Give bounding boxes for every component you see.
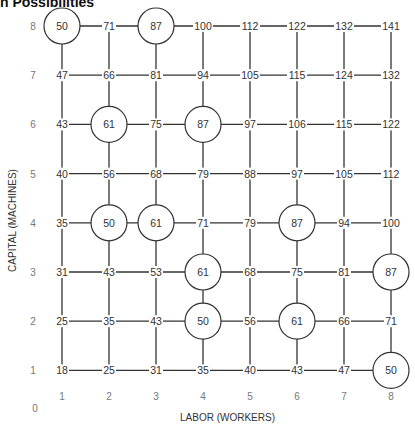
node-value: 106: [288, 118, 306, 130]
node-value: 97: [291, 168, 303, 180]
node-value: 132: [335, 20, 353, 32]
node-value: 105: [335, 168, 353, 180]
x-tick-label: 6: [294, 391, 300, 402]
node-value: 47: [56, 69, 68, 81]
node-value: 94: [197, 69, 209, 81]
y-tick-label: 3: [30, 267, 36, 278]
node-value: 75: [291, 266, 303, 278]
node-value: 66: [103, 69, 115, 81]
circled-node-value: 87: [197, 118, 209, 130]
x-axis-label: LABOR (WORKERS): [180, 412, 275, 423]
node-value: 68: [244, 266, 256, 278]
circled-node-value: 87: [291, 217, 303, 229]
node-value: 112: [383, 168, 400, 180]
node-value: 100: [382, 217, 400, 229]
node-value: 100: [194, 20, 212, 32]
circled-node-value: 50: [197, 315, 209, 327]
circled-node-value: 61: [197, 266, 209, 278]
node-value: 31: [56, 266, 68, 278]
node-value: 71: [103, 20, 115, 32]
node-value: 66: [338, 315, 350, 327]
node-value: 71: [385, 315, 397, 327]
y-tick-label: 8: [30, 21, 36, 32]
node-value: 43: [291, 364, 303, 376]
x-tick-label: 2: [106, 391, 112, 402]
circled-node-value: 61: [291, 315, 303, 327]
node-value: 71: [197, 217, 209, 229]
y-tick-label: 6: [30, 119, 36, 130]
node-value: 43: [150, 315, 162, 327]
x-tick-label: 1: [59, 391, 65, 402]
node-value: 31: [150, 364, 162, 376]
x-tick-label: 8: [388, 391, 394, 402]
node-value: 94: [338, 217, 350, 229]
node-value: 35: [197, 364, 209, 376]
origin-label: 0: [32, 403, 38, 414]
node-value: 81: [338, 266, 350, 278]
circled-node-value: 50: [56, 20, 68, 32]
node-value: 43: [56, 118, 68, 130]
y-axis-label: CAPITAL (MACHINES): [7, 161, 18, 281]
node-value: 56: [103, 168, 115, 180]
node-value: 88: [244, 168, 256, 180]
node-value: 40: [244, 364, 256, 376]
node-value: 141: [382, 20, 400, 32]
y-tick-label: 5: [30, 169, 36, 180]
node-value: 47: [338, 364, 350, 376]
node-value: 132: [382, 69, 400, 81]
x-tick-label: 3: [153, 391, 159, 402]
node-value: 25: [103, 364, 115, 376]
circled-node-value: 87: [385, 266, 397, 278]
y-tick-label: 1: [30, 365, 36, 376]
circled-node-value: 61: [150, 217, 162, 229]
node-value: 105: [241, 69, 259, 81]
node-value: 18: [56, 364, 68, 376]
x-tick-label: 5: [247, 391, 253, 402]
node-value: 122: [382, 118, 400, 130]
node-value: 122: [288, 20, 306, 32]
node-value: 35: [56, 217, 68, 229]
x-tick-label: 4: [200, 391, 206, 402]
node-value: 68: [150, 168, 162, 180]
x-tick-label: 7: [341, 391, 347, 402]
node-value: 43: [103, 266, 115, 278]
y-tick-label: 4: [30, 218, 36, 229]
y-tick-label: 7: [30, 70, 36, 81]
y-tick-label: 2: [30, 316, 36, 327]
node-value: 112: [242, 20, 259, 32]
node-value: 115: [336, 118, 353, 130]
node-value: 56: [244, 315, 256, 327]
node-value: 79: [244, 217, 256, 229]
circled-node-value: 87: [150, 20, 162, 32]
node-value: 124: [335, 69, 353, 81]
node-value: 97: [244, 118, 256, 130]
node-value: 53: [150, 266, 162, 278]
node-value: 40: [56, 168, 68, 180]
node-value: 75: [150, 118, 162, 130]
node-value: 81: [150, 69, 162, 81]
production-grid: 5071871001121221321414766819410511512413…: [0, 0, 415, 429]
node-value: 115: [289, 69, 306, 81]
node-value: 25: [56, 315, 68, 327]
circled-node-value: 50: [103, 217, 115, 229]
node-value: 79: [197, 168, 209, 180]
circled-node-value: 50: [385, 364, 397, 376]
node-value: 35: [103, 315, 115, 327]
circled-node-value: 61: [103, 118, 115, 130]
